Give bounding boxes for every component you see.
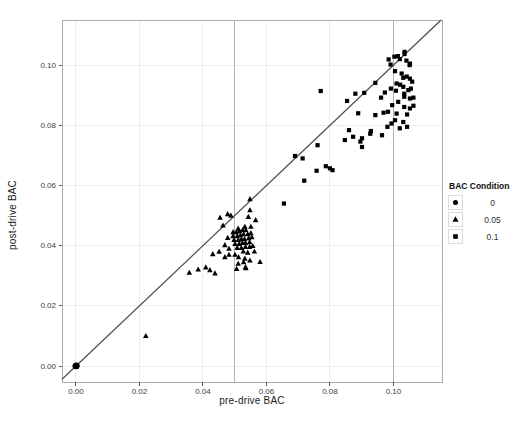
legend-entries: 00.050.1	[448, 194, 522, 245]
legend-item-label: 0.05	[463, 215, 522, 225]
y-tick-label: 0.08	[40, 121, 56, 130]
legend-marker-circle-icon	[448, 195, 463, 210]
legend-item-label: 0.1	[463, 232, 522, 242]
y-tick-label: 0.10	[40, 61, 56, 70]
x-axis-title: pre-drive BAC	[62, 395, 442, 406]
legend-marker-triangle-icon	[448, 212, 463, 227]
legend-item-0-1: 0.1	[448, 228, 522, 245]
legend: BAC Condition 00.050.1	[448, 181, 522, 245]
scatter-plot: 0.000.020.040.060.080.100.000.020.040.06…	[0, 0, 525, 431]
legend-item-0-05: 0.05	[448, 211, 522, 228]
y-tick-label: 0.04	[40, 241, 56, 250]
series-0-1	[282, 50, 416, 206]
y-axis-title: post-drive BAC	[4, 150, 20, 280]
legend-marker-square-icon	[448, 229, 463, 244]
y-tick-label: 0.02	[40, 301, 56, 310]
legend-item-label: 0	[463, 198, 522, 208]
y-tick-label: 0.06	[40, 181, 56, 190]
scatter-figure: 0.000.020.040.060.080.100.000.020.040.06…	[0, 0, 525, 431]
series-0	[72, 363, 79, 370]
y-tick-label: 0.00	[40, 362, 56, 371]
legend-item-0: 0	[448, 194, 522, 211]
legend-title: BAC Condition	[449, 181, 522, 191]
